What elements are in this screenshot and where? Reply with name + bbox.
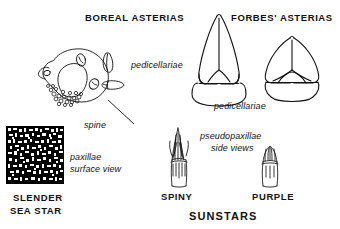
- name-sunstars-group: SUNSTARS: [189, 210, 258, 222]
- label-paxillae-line2: surface view: [70, 164, 121, 174]
- label-pseudopaxillae-line2: side views: [211, 143, 254, 153]
- pedicellaria-forbes-broad-icon: [259, 34, 325, 106]
- label-pedicellariae-top: pedicellariae: [131, 60, 183, 70]
- spine-leader-line: [108, 100, 152, 126]
- label-pedicellariae-mid: pedicellariae: [214, 101, 266, 111]
- label-spine: spine: [84, 120, 106, 130]
- name-purple-sunstar: PURPLE: [252, 192, 294, 203]
- name-slender-sea-star-line1: SLENDER: [13, 193, 63, 204]
- name-slender-sea-star-line2: SEA STAR: [10, 206, 62, 217]
- heading-boreal-asterias: BOREAL ASTERIAS: [85, 13, 184, 24]
- label-pseudopaxillae-line1: pseudopaxillae: [200, 131, 261, 141]
- pedicellaria-boreal-elongate-icon: [186, 12, 252, 108]
- name-spiny-sunstar: SPINY: [161, 192, 193, 203]
- pedicellaria-small-pointed-icon: [99, 52, 117, 74]
- sea-star-identification-figure: BOREAL ASTERIAS FORBES' ASTERIAS: [0, 0, 340, 229]
- pedicellaria-small-blunt-icon: [101, 79, 126, 92]
- pseudopaxilla-purple-side-view-icon: [254, 140, 286, 188]
- pseudopaxilla-spiny-side-view-icon: [162, 126, 196, 188]
- paxillae-surface-texture-icon: [6, 126, 64, 184]
- label-paxillae-line1: paxillae: [70, 152, 101, 162]
